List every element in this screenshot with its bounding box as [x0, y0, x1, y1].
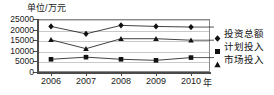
x-axis-title: 年: [203, 76, 212, 89]
x-axis-label: 2010: [181, 76, 201, 86]
triangle-marker-icon: [213, 55, 222, 64]
gridline: [39, 31, 209, 32]
y-axis-label: 5000: [0, 56, 34, 66]
legend-item-total-investment: 投资总额: [213, 27, 264, 39]
y-axis-line: [37, 19, 39, 73]
gridline: [39, 41, 209, 42]
x-axis-label: 2006: [41, 76, 61, 86]
chart-container: 单位/万元 25000 20000 15000 10000 5000 0 200…: [0, 0, 274, 95]
y-axis-label: 0: [0, 67, 34, 77]
x-axis-label: 2009: [146, 76, 166, 86]
legend-label: 计划投入: [224, 41, 264, 52]
y-axis-label: 15000: [0, 35, 34, 45]
legend-label: 投资总额: [224, 28, 264, 39]
legend-item-planned-investment: 计划投入: [213, 40, 264, 52]
y-axis-label: 10000: [0, 46, 34, 56]
y-axis-unit-label: 单位/万元: [27, 1, 66, 14]
x-axis-label: 2007: [76, 76, 96, 86]
gridline: [39, 62, 209, 63]
square-marker-icon: [213, 42, 222, 51]
y-axis-label: 20000: [0, 25, 34, 35]
plot-area: [38, 19, 210, 72]
legend-label: 市场投入: [224, 54, 264, 65]
diamond-marker-icon: [213, 29, 222, 38]
x-axis-line: [37, 72, 211, 74]
chart-legend: 投资总额 计划投入 市场投入: [213, 27, 264, 65]
legend-item-market-investment: 市场投入: [213, 53, 264, 65]
gridline: [39, 52, 209, 53]
y-axis-label: 25000: [0, 14, 34, 24]
gridline: [39, 20, 209, 21]
x-axis-label: 2008: [111, 76, 131, 86]
